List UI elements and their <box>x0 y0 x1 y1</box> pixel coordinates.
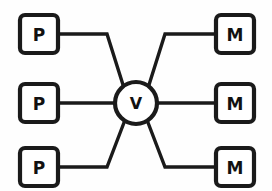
node-p-bottom[interactable]: P <box>20 148 58 186</box>
edge-v-to-m-top <box>148 34 216 88</box>
node-p-bottom-label: P <box>33 158 45 178</box>
node-layer: P P P V M <box>20 15 254 186</box>
node-v-center[interactable]: V <box>115 82 157 124</box>
node-m-middle-label: M <box>227 94 244 114</box>
edge-p-top-to-v <box>58 34 124 88</box>
edge-p-bottom-to-v <box>58 120 125 167</box>
node-p-top[interactable]: P <box>20 15 58 53</box>
node-m-top[interactable]: M <box>216 15 254 53</box>
node-v-center-label: V <box>130 94 143 113</box>
node-m-top-label: M <box>227 25 244 45</box>
edge-v-to-m-bottom <box>147 120 216 167</box>
node-m-bottom[interactable]: M <box>216 148 254 186</box>
node-p-middle[interactable]: P <box>20 84 58 122</box>
node-m-bottom-label: M <box>227 158 244 178</box>
diagram-canvas: P P P V M <box>0 0 272 191</box>
node-p-top-label: P <box>33 25 45 45</box>
diagram-svg: P P P V M <box>0 0 272 191</box>
node-p-middle-label: P <box>33 94 45 114</box>
node-m-middle[interactable]: M <box>216 84 254 122</box>
